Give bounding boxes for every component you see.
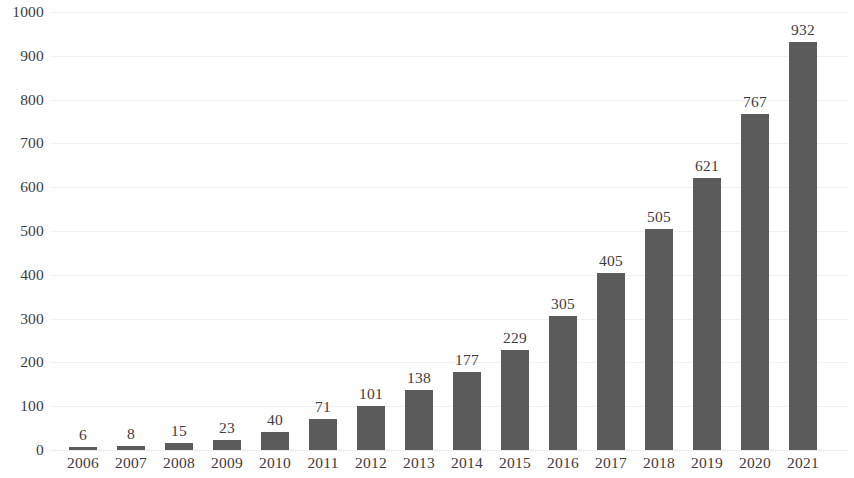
x-tick-label: 2014: [443, 455, 491, 471]
y-tick-label: 100: [0, 398, 44, 414]
y-tick-label: 600: [0, 179, 44, 195]
x-tick-label: 2011: [299, 455, 347, 471]
gridline: [50, 231, 848, 232]
x-tick-label: 2018: [635, 455, 683, 471]
y-tick-label: 0: [0, 442, 44, 458]
x-tick-label: 2015: [491, 455, 539, 471]
x-tick-label: 2010: [251, 455, 299, 471]
y-tick-label: 300: [0, 311, 44, 327]
x-tick-label: 2016: [539, 455, 587, 471]
y-tick-label: 900: [0, 48, 44, 64]
x-tick-label: 2021: [779, 455, 827, 471]
x-tick-label: 2020: [731, 455, 779, 471]
gridline: [50, 362, 848, 363]
gridline: [50, 100, 848, 101]
gridline: [50, 319, 848, 320]
x-tick-label: 2009: [203, 455, 251, 471]
x-tick-label: 2007: [107, 455, 155, 471]
gridline: [50, 56, 848, 57]
x-axis: 2006200720082009201020112012201320142015…: [50, 455, 854, 478]
y-tick-label: 700: [0, 136, 44, 152]
x-tick-label: 2012: [347, 455, 395, 471]
x-tick-label: 2017: [587, 455, 635, 471]
y-tick-label: 1000: [0, 4, 44, 20]
gridline: [50, 275, 848, 276]
gridline: [50, 450, 848, 451]
x-tick-label: 2008: [155, 455, 203, 471]
bar-chart: 01002003004005006007008009001000 6815234…: [0, 0, 854, 478]
y-tick-label: 400: [0, 267, 44, 283]
gridline: [50, 143, 848, 144]
y-tick-label: 800: [0, 92, 44, 108]
x-tick-label: 2013: [395, 455, 443, 471]
x-tick-label: 2019: [683, 455, 731, 471]
gridline: [50, 187, 848, 188]
x-tick-label: 2006: [59, 455, 107, 471]
gridline: [50, 406, 848, 407]
gridline: [50, 12, 848, 13]
plot-area: [50, 0, 854, 478]
y-tick-label: 500: [0, 223, 44, 239]
y-tick-label: 200: [0, 355, 44, 371]
y-axis: 01002003004005006007008009001000: [0, 0, 44, 478]
